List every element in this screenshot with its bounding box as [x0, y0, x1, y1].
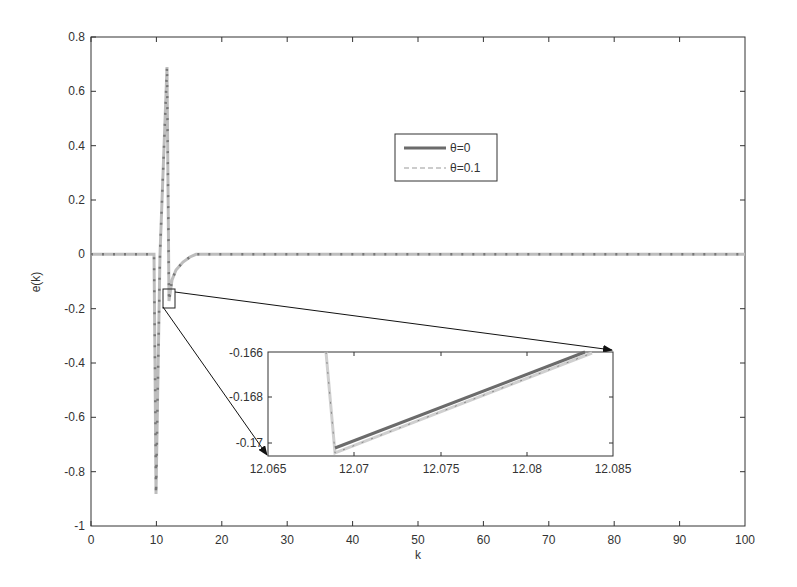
x-tick-label: 60: [477, 533, 491, 547]
chart: 0 10 20 30 40 50 60 70 80 90 100 k 0.8 0…: [0, 0, 797, 587]
zoom-arrow-bottom: [163, 307, 267, 455]
legend-label-theta-0: θ=0: [450, 141, 471, 155]
y-tick-label: 0.8: [68, 30, 85, 44]
x-axis-label: k: [415, 548, 422, 562]
y-tick-label: -0.6: [64, 410, 85, 424]
inset-x-tick-label: 12.08: [512, 462, 542, 476]
inset-x-tick-label: 12.075: [423, 462, 460, 476]
y-tick-label: 0: [78, 247, 85, 261]
inset-y-tick-label: -0.17: [236, 436, 264, 450]
y-tick-label: 0.2: [68, 193, 85, 207]
inset-y-tick-label: -0.168: [229, 390, 263, 404]
y-axis-label: e(k): [29, 272, 43, 293]
y-tick-label: -1: [74, 519, 85, 533]
inset-y-tick-label: -0.166: [229, 346, 263, 360]
x-tick-label: 40: [346, 533, 360, 547]
y-tick-label: 0.4: [68, 139, 85, 153]
y-tick-label: -0.4: [64, 356, 85, 370]
legend-label-theta-0.1: θ=0.1: [450, 161, 481, 175]
x-tick-label: 100: [735, 533, 755, 547]
x-tick-label: 20: [215, 533, 229, 547]
x-tick-label: 30: [281, 533, 295, 547]
x-tick-label: 0: [88, 533, 95, 547]
inset-frame: [268, 352, 613, 456]
y-tick-label: -0.2: [64, 302, 85, 316]
x-tick-label: 90: [673, 533, 687, 547]
legend: θ=0 θ=0.1: [395, 134, 497, 181]
y-axis: 0.8 0.6 0.4 0.2 0 -0.2 -0.4 -0.6 -0.8 -1…: [29, 30, 745, 533]
y-tick-label: 0.6: [68, 84, 85, 98]
x-tick-label: 50: [411, 533, 425, 547]
inset-x-tick-label: 12.085: [595, 462, 632, 476]
inset-x-tick-label: 12.07: [339, 462, 369, 476]
zoom-arrow-top: [175, 292, 612, 350]
legend-box: [395, 134, 497, 181]
inset-x-tick-label: 12.065: [250, 462, 287, 476]
y-tick-label: -0.8: [64, 465, 85, 479]
x-tick-label: 10: [150, 533, 164, 547]
inset-plot: 12.065 12.07 12.075 12.08 12.085 -0.166 …: [229, 346, 632, 476]
x-axis: 0 10 20 30 40 50 60 70 80 90 100 k: [88, 37, 756, 562]
x-tick-label: 70: [542, 533, 556, 547]
x-tick-label: 80: [608, 533, 622, 547]
